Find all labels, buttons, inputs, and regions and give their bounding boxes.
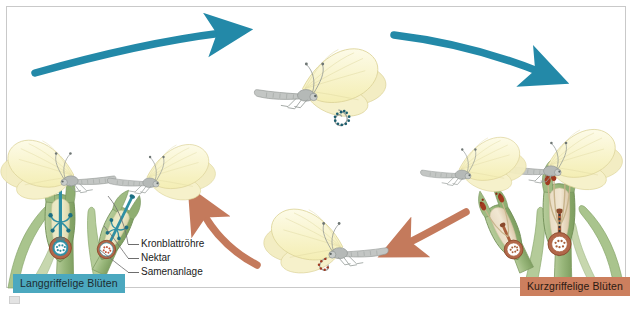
callout-nectar: Nektar [141,252,170,264]
label-short-styled-flowers: Kurzgriffelige Blüten [520,277,630,296]
callout-ovule: Samenanlage [141,266,203,278]
diagram-artwork [0,0,634,309]
butterfly-right-small-on-flower [421,137,527,191]
callout-corolla-tube: Kronblattröhre [141,238,204,250]
arrow-bottom-left [203,213,257,265]
butterfly-bottom-center [264,209,388,273]
figure-canvas: Langgriffelige Blüten Kurzgriffelige Blü… [0,0,634,309]
label-long-styled-flowers: Langgriffelige Blüten [13,274,125,293]
arrow-top-left [35,33,222,73]
leader-line-ovule [128,272,139,273]
butterfly-left-on-flower [1,140,116,199]
butterfly-top-center [254,49,385,126]
leader-line-corolla-tube [128,244,139,245]
arrow-bottom-right [406,212,466,244]
corner-tick-mark [9,296,20,304]
arrow-top-right [394,35,540,72]
leader-line-nectar [128,258,139,259]
flower-group-short-styled [421,129,625,288]
butterfly-left-small-on-flower [107,145,215,200]
